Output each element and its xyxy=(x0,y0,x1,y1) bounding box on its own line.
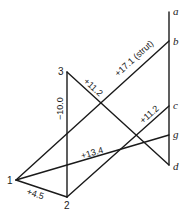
node-label-1: 1 xyxy=(7,175,13,186)
force-label-2-c: +11.2 xyxy=(138,103,161,125)
force-label-3-2: −10.0 xyxy=(55,97,65,120)
force-diagram: a b c g d 3 1 2 +17.1 (strut) +11.2 −10.… xyxy=(0,0,189,215)
node-label-3: 3 xyxy=(58,66,64,77)
node-label-g: g xyxy=(173,128,179,140)
node-label-c: c xyxy=(173,99,178,111)
node-label-a: a xyxy=(173,5,179,17)
node-label-b: b xyxy=(173,35,179,47)
node-label-d: d xyxy=(173,160,179,172)
node-label-2: 2 xyxy=(64,200,70,211)
force-label-1-g: +13.4 xyxy=(80,145,105,161)
